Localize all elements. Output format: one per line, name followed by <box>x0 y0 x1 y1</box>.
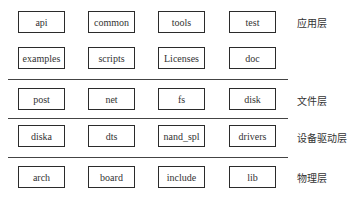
layer-label-filesystem: 文件层 <box>297 93 327 108</box>
module-licenses: Licenses <box>158 47 205 69</box>
layer-label-physical: 物理层 <box>297 170 327 185</box>
layer-divider-3 <box>8 157 288 158</box>
module-disk: disk <box>229 88 276 110</box>
module-doc: doc <box>229 47 276 69</box>
module-lib: lib <box>229 166 276 188</box>
module-tools: tools <box>158 11 205 33</box>
module-drivers: drivers <box>229 125 276 147</box>
layer-divider-2 <box>8 118 288 119</box>
module-include: include <box>158 166 205 188</box>
module-nand-spl: nand_spl <box>158 125 205 147</box>
module-api: api <box>18 11 65 33</box>
module-net: net <box>88 88 135 110</box>
module-examples: examples <box>18 47 65 69</box>
module-fs: fs <box>158 88 205 110</box>
module-arch: arch <box>18 166 65 188</box>
module-dts: dts <box>88 125 135 147</box>
layer-label-application: 应用层 <box>297 15 327 30</box>
module-common: common <box>88 11 135 33</box>
layer-divider-1 <box>8 79 288 80</box>
layer-label-device-driver: 设备驱动层 <box>297 130 347 145</box>
module-diska: diska <box>18 125 65 147</box>
module-test: test <box>229 11 276 33</box>
module-post: post <box>18 88 65 110</box>
module-board: board <box>88 166 135 188</box>
module-scripts: scripts <box>88 47 135 69</box>
